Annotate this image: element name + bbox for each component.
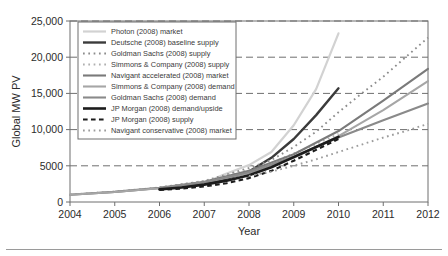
xtick-label-2005: 2005 [103, 208, 127, 220]
legend-label-7: JP Morgan (2008) demand/upside [111, 104, 223, 113]
ytick-label-25000: 25,000 [31, 15, 63, 27]
xtick-label-2008: 2008 [237, 208, 261, 220]
xtick-label-2009: 2009 [282, 208, 306, 220]
legend-label-8: JP Morgan (2008) supply [111, 115, 194, 124]
legend-label-3: Simmons & Company (2008) supply [111, 60, 230, 69]
xtick-label-2012: 2012 [416, 208, 440, 220]
ytick-label-15000: 15,000 [31, 87, 63, 99]
footer-divider [6, 249, 442, 250]
ytick-label-10000: 10,000 [31, 123, 63, 135]
legend-label-0: Photon (2008) market [111, 27, 182, 36]
xtick-label-2010: 2010 [327, 208, 351, 220]
chart-legend: Photon (2008) marketDeutsche (2008) base… [78, 22, 236, 139]
ytick-label-0: 0 [57, 196, 63, 208]
legend-label-4: Navigant accelerated (2008) market [111, 71, 229, 80]
ytick-label-20000: 20,000 [31, 51, 63, 63]
chart-figure: 0500010,00015,00020,00025,00020042005200… [0, 0, 448, 256]
legend-label-5: Simmons & Company (2008) demand [111, 82, 235, 91]
legend-label-9: Navigant conservative (2008) market [111, 126, 232, 135]
legend-label-2: Goldman Sachs (2008) supply [111, 49, 211, 58]
legend-label-1: Deutsche (2008) baseline supply [111, 38, 219, 47]
y-axis-title: Global MW PV [10, 75, 22, 148]
xtick-label-2004: 2004 [58, 208, 82, 220]
xtick-label-2011: 2011 [372, 208, 395, 220]
xtick-label-2007: 2007 [193, 208, 217, 220]
xtick-label-2006: 2006 [148, 208, 172, 220]
x-axis-title: Year [238, 225, 261, 237]
ytick-label-5000: 5000 [40, 160, 64, 172]
line-chart: 0500010,00015,00020,00025,00020042005200… [0, 0, 448, 256]
legend-label-6: Goldman Sachs (2008) demand [111, 93, 216, 102]
